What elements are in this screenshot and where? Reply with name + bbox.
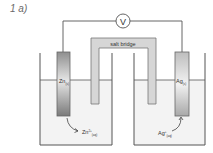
voltmeter: V bbox=[116, 14, 130, 28]
left-solution bbox=[40, 80, 112, 145]
voltmeter-symbol: V bbox=[120, 17, 126, 27]
left-beaker bbox=[40, 53, 112, 145]
right-beaker bbox=[134, 53, 205, 145]
electrochemical-cell-diagram: salt bridge V Zn(s) Ag(s) Zn2+(aq) Ag+(a… bbox=[0, 0, 213, 153]
salt-bridge-label: salt bridge bbox=[110, 41, 135, 47]
